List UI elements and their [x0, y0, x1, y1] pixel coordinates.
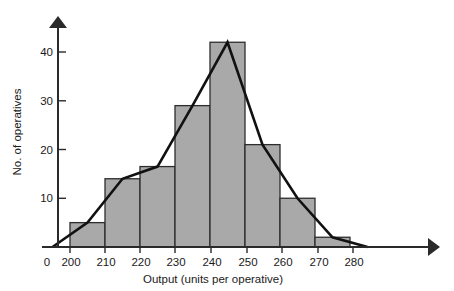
x-tick-label-220: 220: [131, 256, 150, 268]
x-tick-label-230: 230: [166, 256, 185, 268]
bar-250-260: [245, 145, 280, 247]
x-tick-label-0: 0: [44, 256, 50, 268]
x-tick-label-250: 250: [238, 256, 257, 268]
bar-240-250: [210, 42, 245, 247]
bar-200-210: [70, 223, 105, 247]
y-tick-label-20: 20: [40, 144, 53, 156]
y-tick-label-40: 40: [40, 46, 53, 58]
chart-canvas: 10 20 30 40 0 200 210 220 230 240 250 26…: [0, 0, 454, 291]
bar-210-220: [105, 179, 140, 247]
x-axis-title: Output (units per operative): [143, 273, 283, 285]
x-tick-label-200: 200: [61, 256, 80, 268]
y-ticks-group: [58, 52, 66, 198]
y-axis-title: No. of operatives: [11, 88, 23, 175]
x-tick-label-260: 260: [273, 256, 292, 268]
x-tick-label-210: 210: [96, 256, 115, 268]
x-tick-label-280: 280: [344, 256, 363, 268]
histogram-chart: 10 20 30 40 0 200 210 220 230 240 250 26…: [0, 0, 454, 291]
y-tick-label-30: 30: [40, 95, 53, 107]
y-tick-label-10: 10: [40, 192, 53, 204]
bar-270-280: [315, 237, 350, 247]
x-tick-label-270: 270: [309, 256, 328, 268]
bar-220-230: [140, 167, 175, 247]
x-tick-label-240: 240: [202, 256, 221, 268]
bar-260-270: [280, 198, 315, 247]
